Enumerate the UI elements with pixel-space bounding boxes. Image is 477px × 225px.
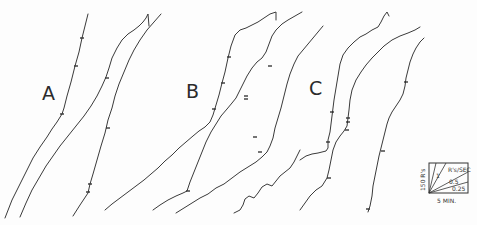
curve-c3 — [368, 38, 424, 212]
rate-line-1 — [429, 163, 436, 193]
curve-b4 — [234, 150, 300, 213]
rate-label-1: 1 — [436, 172, 440, 179]
x-scale-label: 5 MIN. — [437, 197, 456, 204]
cumulative-record-plot: R's/SEC 1 0.5 0.25 150 R's 5 MIN. — [0, 0, 477, 225]
rate-label-0-5: 0.5 — [449, 178, 459, 185]
curve-b3 — [176, 26, 323, 213]
panel-label-b: B — [186, 80, 199, 102]
curve-a1 — [5, 14, 88, 218]
panel-a-curves — [5, 14, 161, 218]
panel-b-curves — [105, 12, 323, 213]
rate-unit-label: R's/SEC — [448, 166, 471, 173]
cumulative-record-figure: R's/SEC 1 0.5 0.25 150 R's 5 MIN. A B C — [0, 0, 477, 225]
rate-label-0-25: 0.25 — [452, 185, 466, 192]
curve-c2 — [300, 27, 420, 210]
panel-label-c: C — [309, 77, 322, 99]
calibration-key: R's/SEC 1 0.5 0.25 150 R's 5 MIN. — [419, 163, 471, 204]
panel-label-a: A — [42, 82, 55, 104]
curve-a2 — [20, 14, 149, 217]
curve-a3 — [73, 14, 161, 216]
panel-c-curves — [300, 12, 424, 212]
y-scale-label: 150 R's — [419, 169, 426, 191]
